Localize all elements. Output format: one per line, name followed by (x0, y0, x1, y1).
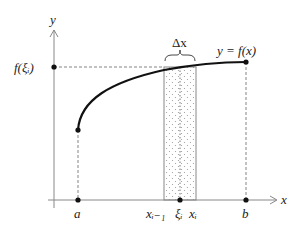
a-point (75, 197, 80, 202)
delta-x-brace (165, 50, 195, 61)
xi-point (177, 197, 182, 202)
tick-x-i: xᵢ (188, 206, 197, 221)
tick-xi: ξᵢ (175, 206, 183, 221)
delta-x-label: Δx (172, 35, 187, 50)
tick-a: a (74, 206, 81, 221)
b-point (243, 197, 248, 202)
curve-label: y = f(x) (215, 43, 256, 58)
curve-f (78, 62, 246, 130)
curve-end-point (243, 59, 248, 64)
riemann-diagram: y x f(ξᵢ) Δx y = f(x) a xᵢ₋₁ ξᵢ xᵢ b (0, 0, 296, 230)
curve-start-point (75, 127, 80, 132)
f-xi-label: f(ξᵢ) (14, 60, 34, 75)
y-axis-label: y (48, 12, 56, 27)
x-axis-label: x (280, 192, 287, 207)
f-xi-point (51, 64, 56, 69)
tick-b: b (242, 206, 249, 221)
tick-x-i-minus-1: xᵢ₋₁ (145, 206, 165, 221)
